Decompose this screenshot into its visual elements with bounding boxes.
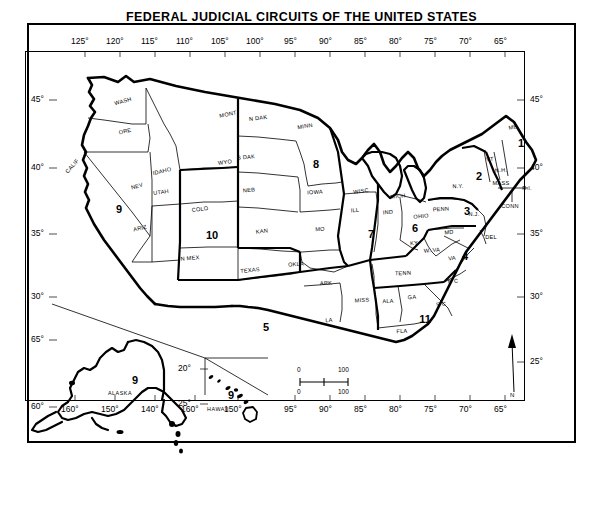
state-label-penn: PENN: [433, 205, 450, 212]
map-page: FEDERAL JUDICIAL CIRCUITS OF THE UNITED …: [0, 0, 603, 506]
bottom-lon-label: 95°: [284, 404, 297, 414]
right-lat-label: 25°: [530, 356, 543, 366]
circuit-number-11: 11: [419, 313, 431, 325]
top-lon-label: 100°: [246, 36, 264, 46]
circuit-number-9: 9: [116, 203, 122, 215]
right-lat-label: 40°: [530, 162, 543, 172]
circuit-number-7: 7: [368, 228, 374, 240]
top-lon-label: 80°: [389, 36, 402, 46]
state-label-s-c: S C: [436, 300, 447, 307]
bottom-lon-label: 150°: [101, 404, 119, 414]
circuit-number-8: 8: [313, 158, 319, 170]
circuit-number-4: 4: [462, 250, 468, 262]
state-label-md: MD: [444, 229, 454, 236]
bottom-lon-label: 65°: [494, 404, 507, 414]
state-label-del: DEL: [485, 234, 497, 240]
right-lat-label: 45°: [530, 94, 543, 104]
bottom-lon-label: 140°: [141, 404, 159, 414]
circuit-number-9: 9: [132, 374, 138, 386]
state-label-ill: ILL: [350, 207, 359, 214]
state-label-ark: ARK: [320, 280, 333, 287]
state-label-vt: VT: [486, 156, 494, 163]
state-label-mo: MO: [315, 226, 325, 233]
state-label-conn: CONN: [501, 203, 518, 209]
top-lon-label: 120°: [106, 36, 124, 46]
state-label-iowa: IOWA: [307, 189, 323, 196]
circuit-number-3: 3: [464, 205, 470, 217]
top-lon-label: 95°: [284, 36, 297, 46]
left-lat-label: 40°: [31, 162, 44, 172]
right-lat-label: 35°: [530, 228, 543, 238]
left-lat-label: 35°: [31, 228, 44, 238]
state-label-la: LA: [325, 317, 333, 323]
state-label-r-i-: R.I.: [522, 185, 532, 191]
circuit-number-1: 1: [518, 137, 524, 149]
top-lon-label: 70°: [459, 36, 472, 46]
top-lon-label: 115°: [141, 36, 158, 46]
top-lon-label: 85°: [354, 36, 367, 46]
scale-bar-label-top-left: 0: [297, 366, 301, 373]
top-lon-label: 110°: [176, 36, 193, 46]
state-label-va: VA: [448, 255, 456, 262]
north-arrow-label: N: [510, 392, 514, 398]
state-label-kan: KAN: [256, 227, 269, 234]
left-lat-label: 65°: [31, 334, 44, 344]
map-plot-frame: [25, 51, 525, 401]
state-label-neb: NEB: [243, 187, 256, 194]
state-label-okla: OKLA: [288, 261, 304, 268]
inset-lat-label: 25°: [178, 398, 191, 408]
inset-lat-label: 20°: [178, 363, 191, 373]
circuit-number-2: 2: [476, 170, 482, 182]
state-label-ga: GA: [408, 294, 417, 300]
state-label-n-j-: N.J.: [469, 211, 480, 217]
right-lat-label: 30°: [530, 291, 543, 301]
left-lat-label: 60°: [31, 401, 44, 411]
state-label-ky: KY: [410, 240, 418, 247]
top-lon-label: 105°: [211, 36, 229, 46]
state-label-ind: IND: [383, 209, 394, 216]
state-label-n-h-: N.H.: [495, 167, 508, 174]
top-lon-label: 90°: [319, 36, 332, 46]
scale-bar-label-top-right: 100: [338, 366, 349, 373]
bottom-lon-label: 90°: [319, 404, 332, 414]
state-label-n-y-: N.Y.: [452, 183, 463, 189]
state-label-mass: MASS: [493, 180, 510, 186]
left-lat-label: 45°: [31, 94, 44, 104]
bottom-lon-label: 85°: [354, 404, 367, 414]
circuit-number-5: 5: [263, 321, 269, 333]
scale-bar-label-bottom-right: 100: [338, 388, 349, 395]
circuit-number-10: 10: [206, 229, 218, 241]
left-lat-label: 30°: [31, 291, 44, 301]
circuit-number-6: 6: [412, 222, 418, 234]
bottom-lon-label: 75°: [424, 404, 437, 414]
state-label-fla: FLA: [396, 328, 407, 334]
bottom-lon-label: 70°: [459, 404, 472, 414]
state-label-n-c: N C: [447, 277, 458, 284]
bottom-lon-label: 160°: [61, 404, 79, 414]
state-label-ala: ALA: [382, 298, 394, 305]
top-lon-label: 75°: [424, 36, 437, 46]
top-lon-label: 125°: [71, 36, 89, 46]
state-label-tenn: TENN: [395, 270, 411, 277]
inset-label-alaska: ALASKA: [108, 390, 132, 396]
scale-bar-label-bottom-left: 0: [297, 388, 301, 395]
page-title: FEDERAL JUDICIAL CIRCUITS OF THE UNITED …: [0, 10, 603, 24]
top-lon-label: 65°: [494, 36, 507, 46]
inset-label-hawaii: HAWAII: [207, 406, 229, 412]
state-label-miss: MISS: [355, 297, 370, 304]
circuit-number-9: 9: [228, 389, 234, 401]
bottom-lon-label: 80°: [389, 404, 402, 414]
